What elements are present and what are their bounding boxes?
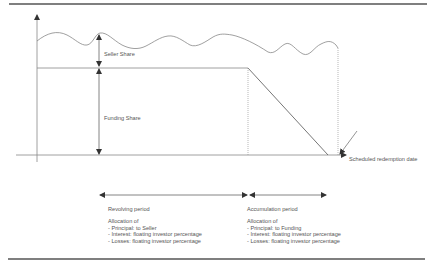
revolving-allocation-item: - Losses: floating investor percentage <box>108 238 202 244</box>
scheduled-redemption-label: Scheduled redemption date <box>349 156 417 162</box>
funding-share-label: Funding Share <box>104 115 141 121</box>
accumulation-period-block: Accumulation period Allocation of - Prin… <box>247 206 341 244</box>
seller-share-curve <box>37 33 338 55</box>
accumulation-decline <box>248 68 328 155</box>
diagram-canvas <box>0 0 434 267</box>
accumulation-allocation-item: - Interest: floating investor percentage <box>247 231 341 237</box>
revolving-period-block: Revolving period Allocation of - Princip… <box>108 206 202 244</box>
accumulation-allocation-item: - Losses: floating investor percentage <box>247 238 341 244</box>
seller-share-label: Seller Share <box>104 51 135 57</box>
revolving-allocation-item: - Interest: floating investor percentage <box>108 231 202 237</box>
redemption-pointer <box>340 131 357 154</box>
